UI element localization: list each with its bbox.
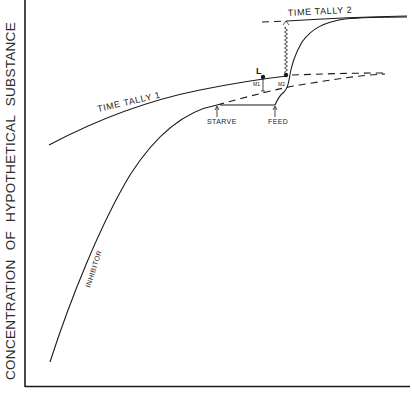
- time-tally-1-curve: [49, 76, 287, 145]
- feed-rise-curve: [275, 17, 407, 105]
- starve-arrow-icon: [215, 106, 219, 117]
- arrowhead-up-icon: [283, 21, 289, 25]
- axes: [25, 0, 410, 387]
- diagram-canvas: TIME TALLY 1 TIME TALLY 2 INHIBITOR STAR…: [0, 0, 412, 397]
- inhibitor-label: INHIBITOR: [84, 249, 103, 288]
- point-m2-dot: [284, 73, 288, 77]
- inhibitor-curve: [50, 105, 217, 362]
- starve-label: STARVE: [207, 118, 237, 125]
- feed-arrow-icon: [273, 106, 277, 117]
- time-tally-2-label: TIME TALLY 2: [288, 5, 353, 18]
- m1-label: M1: [253, 81, 260, 87]
- time-tally-2-dashed-start: [262, 21, 287, 22]
- point-l-label: L: [256, 66, 262, 76]
- wavy-arrow-m2-to-tally2: [285, 27, 288, 74]
- feed-label: FEED: [268, 118, 288, 125]
- m2-label: M2: [278, 81, 285, 87]
- inhibitor-dashed-extension: [217, 74, 385, 105]
